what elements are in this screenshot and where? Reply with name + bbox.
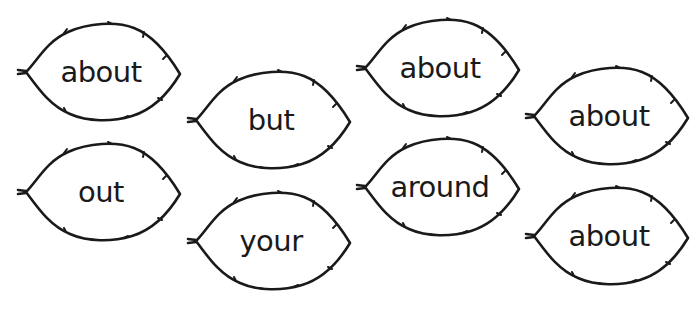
leaf-card: around <box>355 135 521 239</box>
leaf-card: about <box>16 20 182 124</box>
leaf-card: out <box>16 140 182 244</box>
leaf-word: about <box>534 184 684 288</box>
leaf-card: about <box>524 184 690 288</box>
leaf-word: but <box>196 68 346 172</box>
leaf-word: around <box>365 135 515 239</box>
leaf-word: about <box>534 64 684 168</box>
leaf-card: your <box>186 189 352 293</box>
leaf-word: about <box>26 20 176 124</box>
leaf-card: but <box>186 68 352 172</box>
leaf-word: about <box>365 16 515 120</box>
leaf-card: about <box>355 16 521 120</box>
leaf-card: about <box>524 64 690 168</box>
leaf-word: out <box>26 140 176 244</box>
leaf-word: your <box>196 189 346 293</box>
